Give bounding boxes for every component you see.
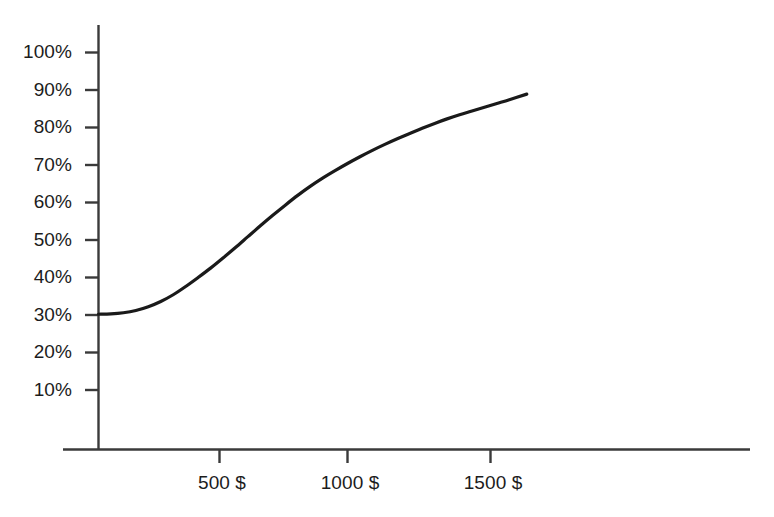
y-tick-label-80: 80% [10,116,72,138]
chart-container: 100% 90% 80% 70% 60% 50% 40% 30% 20% 10%… [0,0,774,517]
y-axis-ticks [85,53,99,391]
y-tick-label-90: 90% [10,79,72,101]
x-tick-label-1000: 1000 $ [321,472,380,494]
y-tick-label-30: 30% [10,304,72,326]
data-series-line [99,94,527,314]
y-tick-label-60: 60% [10,191,72,213]
x-tick-label-500: 500 $ [198,472,246,494]
chart-plot-area [0,0,774,517]
x-axis-ticks [220,449,491,463]
y-tick-label-100: 100% [10,41,72,63]
y-tick-label-70: 70% [10,154,72,176]
y-tick-label-40: 40% [10,266,72,288]
y-tick-label-10: 10% [10,379,72,401]
x-tick-label-1500: 1500 $ [464,472,523,494]
y-tick-label-50: 50% [10,229,72,251]
y-tick-label-20: 20% [10,341,72,363]
